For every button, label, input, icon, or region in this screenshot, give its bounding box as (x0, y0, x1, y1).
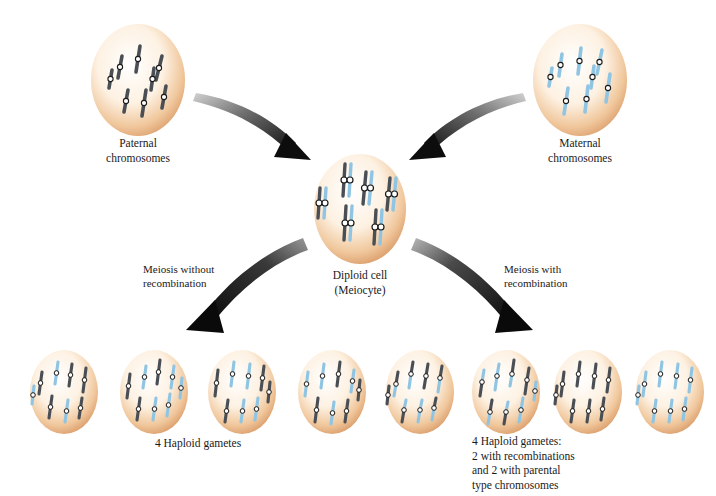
gamete-left-2 (110, 346, 198, 438)
caption-diploid: Diploid cell (Meiocyte) (300, 268, 420, 297)
label-meiosis-with-recombination: Meiosis with recombination (504, 262, 634, 290)
gamete-left-1 (20, 346, 108, 438)
cell-diploid (300, 148, 420, 270)
meiosis-diagram: Paternal chromosomes (0, 0, 716, 496)
label-meiosis-without-recombination: Meiosis without recombination (143, 262, 273, 290)
gamete-right-3 (544, 346, 632, 438)
arrow-paternal-to-diploid (193, 93, 311, 160)
caption-left-gametes: 4 Haploid gametes (118, 436, 278, 451)
gamete-right-1 (376, 346, 464, 438)
cell-maternal (518, 18, 642, 142)
caption-maternal: Maternal chromosomes (520, 136, 640, 165)
caption-paternal: Paternal chromosomes (78, 136, 198, 165)
gamete-left-3 (198, 346, 286, 438)
gamete-right-4 (626, 346, 714, 438)
caption-right-gametes: 4 Haploid gametes: 2 with recombinations… (472, 434, 652, 493)
gamete-left-4 (288, 346, 376, 438)
cell-paternal (76, 18, 200, 142)
gamete-right-2 (462, 346, 550, 438)
arrow-maternal-to-diploid (409, 93, 526, 160)
